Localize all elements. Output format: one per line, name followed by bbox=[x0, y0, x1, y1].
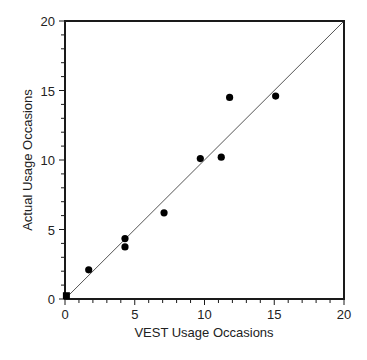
data-point-marker bbox=[85, 266, 92, 273]
y-tick-label: 5 bbox=[48, 223, 55, 238]
y-axis-label: Actual Usage Occasions bbox=[20, 89, 35, 231]
data-point-marker bbox=[197, 155, 204, 162]
data-point-marker bbox=[121, 235, 128, 242]
y-tick-label: 10 bbox=[41, 153, 55, 168]
data-point-marker bbox=[121, 243, 128, 250]
x-axis-label: VEST Usage Occasions bbox=[134, 325, 274, 340]
scatter-chart: 0510152005101520 VEST Usage Occasions Ac… bbox=[0, 0, 367, 360]
y-tick-label: 0 bbox=[48, 292, 55, 307]
data-point-marker bbox=[272, 92, 279, 99]
x-tick-label: 5 bbox=[131, 307, 138, 322]
y-tick-label: 15 bbox=[41, 84, 55, 99]
data-point-marker bbox=[218, 154, 225, 161]
data-point-marker bbox=[63, 292, 70, 299]
x-tick-label: 20 bbox=[337, 307, 351, 322]
identity-reference-line bbox=[65, 21, 344, 299]
data-point-marker bbox=[160, 209, 167, 216]
y-tick-label: 20 bbox=[41, 14, 55, 29]
x-tick-label: 10 bbox=[197, 307, 211, 322]
data-point-marker bbox=[226, 94, 233, 101]
x-tick-label: 15 bbox=[267, 307, 281, 322]
x-tick-label: 0 bbox=[61, 307, 68, 322]
